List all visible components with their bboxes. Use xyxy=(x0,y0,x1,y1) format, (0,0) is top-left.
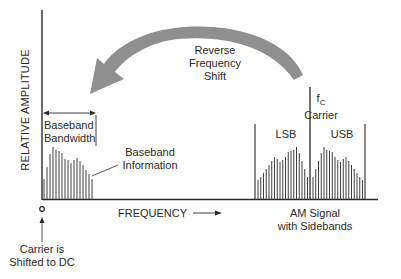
info-leader-line xyxy=(92,165,118,176)
info-label-line2: Information xyxy=(118,159,182,172)
dc-origin-marker xyxy=(40,207,45,212)
arrow-label-line1: Reverse xyxy=(180,44,250,57)
y-axis-label: RELATIVE AMPLITUDE xyxy=(19,49,31,170)
bandwidth-label: Baseband Bandwidth xyxy=(44,119,96,145)
bandwidth-label-line1: Baseband xyxy=(44,119,96,132)
x-axis-label: FREQUENCY xyxy=(118,207,192,220)
am-label-line2: with Sidebands xyxy=(270,220,360,233)
am-label-line1: AM Signal xyxy=(270,207,360,220)
arrow-label: Reverse Frequency Shift xyxy=(180,44,250,83)
dc-label-line1: Carrier is xyxy=(2,243,82,256)
am-signal-label: AM Signal with Sidebands xyxy=(270,207,360,233)
info-label-line1: Baseband xyxy=(118,146,182,159)
carrier-text: Carrier xyxy=(293,109,349,122)
bandwidth-label-line2: Bandwidth xyxy=(44,132,96,145)
arrow-label-line2: Frequency xyxy=(180,57,250,70)
carrier-label: fC Carrier xyxy=(293,92,349,122)
frequency-shift-diagram: RELATIVE AMPLITUDE Reverse Frequency Shi… xyxy=(0,0,401,279)
dc-label: Carrier is Shifted to DC xyxy=(2,243,82,269)
frequency-arrow-icon xyxy=(193,211,222,216)
dc-pointer-arrow-icon xyxy=(40,217,45,242)
arrow-label-line3: Shift xyxy=(180,70,250,83)
carrier-frequency-symbol: fC xyxy=(293,92,349,109)
baseband-info-label: Baseband Information xyxy=(118,146,182,172)
usb-label: USB xyxy=(327,128,357,141)
baseband-spectrum xyxy=(44,147,92,199)
dc-label-line2: Shifted to DC xyxy=(2,256,82,269)
lsb-label: LSB xyxy=(271,128,301,141)
